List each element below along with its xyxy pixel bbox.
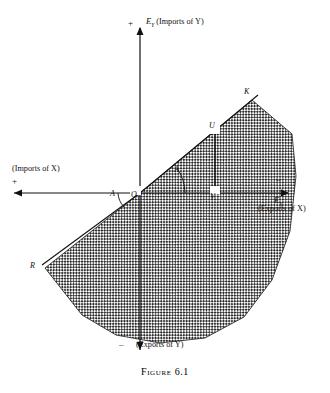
- figure-caption: Figure 6.1: [0, 366, 330, 377]
- point-label-v: V: [210, 193, 215, 201]
- vertical-axis-minus-sign: –: [119, 340, 124, 349]
- vertical-axis-subscript: Y: [151, 22, 154, 28]
- figure-caption-number: 6.1: [175, 366, 189, 377]
- point-label-k: K: [244, 88, 249, 96]
- vertical-axis-plus-sign: +: [128, 19, 133, 28]
- angle-label-left: A: [110, 190, 115, 198]
- figure-container: + EY (Imports of Y) – EX (Exports of X) …: [0, 0, 330, 393]
- angle-label-right: A: [174, 166, 179, 174]
- horizontal-axis-plus-sign: +: [12, 177, 17, 186]
- figure-caption-word: Figure: [141, 366, 172, 377]
- point-label-r: R: [30, 262, 35, 270]
- horizontal-axis-minus-sign: –: [276, 175, 281, 184]
- point-label-u: U: [209, 122, 215, 130]
- vertical-axis-bottom-description: (Exports of Y): [136, 341, 183, 349]
- vertical-axis-label: EY (Imports of Y): [146, 17, 204, 28]
- horizontal-axis-description: (Exports of X): [258, 205, 306, 213]
- vertical-axis-description: (Imports of Y): [156, 17, 203, 26]
- shaded-region: [45, 100, 296, 343]
- point-label-origin: O: [131, 191, 137, 199]
- horizontal-axis-left-description: (Imports of X): [12, 165, 60, 173]
